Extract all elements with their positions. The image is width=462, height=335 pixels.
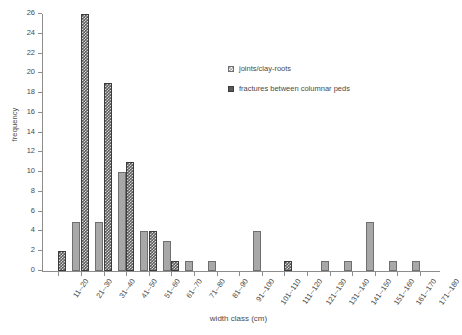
bar-group-141--150 bbox=[344, 14, 361, 271]
x-tick-141--150 bbox=[352, 272, 353, 276]
y-tick-4: 4 bbox=[38, 230, 42, 231]
x-tick-151--160 bbox=[375, 272, 376, 276]
x-tick-11--20 bbox=[58, 272, 59, 276]
x-axis-title-wrap: width class (cm) bbox=[0, 314, 451, 323]
x-tick-label-151--160: 151--160 bbox=[392, 277, 417, 307]
x-tick-81--90 bbox=[217, 272, 218, 276]
y-tick-6: 6 bbox=[38, 211, 42, 212]
y-tick-8: 8 bbox=[38, 191, 42, 192]
y-tick-label-26: 26 bbox=[27, 8, 35, 17]
bar-131--140-joints-clay-roots bbox=[321, 261, 329, 271]
bar-group-41--50 bbox=[118, 14, 135, 271]
bar-group-161--170 bbox=[389, 14, 406, 271]
x-tick-label-41--50: 41--50 bbox=[139, 277, 159, 300]
bar-group-91--100 bbox=[231, 14, 248, 271]
y-tick-24: 24 bbox=[38, 33, 42, 34]
legend-item-joints-clay-roots: joints/clay-roots bbox=[228, 64, 350, 73]
bar-group-151--160 bbox=[366, 14, 383, 271]
y-tick-22: 22 bbox=[38, 53, 42, 54]
x-tick-131--140 bbox=[330, 272, 331, 276]
bar-11--20-fractures bbox=[58, 251, 66, 271]
x-tick-label-111--120: 111--120 bbox=[301, 277, 325, 306]
y-tick-label-24: 24 bbox=[27, 28, 35, 37]
y-tick-12: 12 bbox=[38, 151, 42, 152]
y-tick-label-14: 14 bbox=[27, 127, 35, 136]
x-tick-121--130 bbox=[307, 272, 308, 276]
y-tick-16: 16 bbox=[38, 112, 42, 113]
bar-101--110-joints-clay-roots bbox=[253, 231, 261, 271]
bar-group-101--110 bbox=[253, 14, 270, 271]
y-tick-label-18: 18 bbox=[27, 87, 35, 96]
x-tick-label-101--110: 101--110 bbox=[278, 277, 302, 306]
y-tick-26: 26 bbox=[38, 13, 42, 14]
y-tick-label-0: 0 bbox=[31, 265, 35, 274]
bar-71--80-joints-clay-roots bbox=[185, 261, 193, 271]
bar-31--40-joints-clay-roots bbox=[95, 222, 103, 271]
bar-51--60-fractures bbox=[149, 231, 157, 271]
y-tick-label-6: 6 bbox=[31, 206, 35, 215]
x-tick-label-11--20: 11--20 bbox=[71, 277, 90, 299]
x-tick-label-131--140: 131--140 bbox=[346, 277, 371, 307]
y-tick-14: 14 bbox=[38, 132, 42, 133]
bar-161--170-joints-clay-roots bbox=[389, 261, 397, 271]
x-tick-label-171--180: 171--180 bbox=[437, 277, 462, 307]
y-tick-label-20: 20 bbox=[27, 67, 35, 76]
x-tick-71--80 bbox=[194, 272, 195, 276]
legend-label-joints-clay-roots: joints/clay-roots bbox=[239, 64, 291, 73]
y-tick-label-22: 22 bbox=[27, 48, 35, 57]
x-tick-label-91--100: 91--100 bbox=[254, 277, 276, 303]
bar-41--50-joints-clay-roots bbox=[118, 172, 126, 271]
bar-141--150-joints-clay-roots bbox=[344, 261, 352, 271]
bar-group-171--180 bbox=[412, 14, 429, 271]
bar-111--120-fractures bbox=[284, 261, 292, 271]
x-tick-111--120 bbox=[284, 272, 285, 276]
x-tick-101--110 bbox=[262, 272, 263, 276]
x-axis-title: width class (cm) bbox=[210, 314, 267, 323]
bar-group-111--120 bbox=[276, 14, 293, 271]
x-tick-label-51--60: 51--60 bbox=[162, 277, 182, 300]
bar-31--40-fractures bbox=[104, 83, 112, 271]
bar-81--90-joints-clay-roots bbox=[208, 261, 216, 271]
bar-151--160-joints-clay-roots bbox=[366, 222, 374, 271]
y-tick-label-12: 12 bbox=[27, 146, 35, 155]
y-tick-label-8: 8 bbox=[31, 186, 35, 195]
x-tick-label-141--150: 141--150 bbox=[369, 277, 394, 307]
legend-swatch-icon-joints-clay-roots bbox=[228, 66, 234, 72]
x-tick-label-21--30: 21--30 bbox=[94, 277, 114, 300]
bar-group-51--60 bbox=[140, 14, 157, 271]
bar-group-61--70 bbox=[163, 14, 180, 271]
x-tick-label-81--90: 81--90 bbox=[230, 277, 250, 300]
bar-41--50-fractures bbox=[126, 162, 134, 271]
bar-61--70-joints-clay-roots bbox=[163, 241, 171, 271]
bar-group-81--90 bbox=[208, 14, 225, 271]
x-tick-label-31--40: 31--40 bbox=[117, 277, 137, 300]
legend-label-fractures-between-columnar-peds: fractures between columnar peds bbox=[239, 84, 350, 93]
x-tick-51--60 bbox=[149, 272, 150, 276]
y-tick-label-4: 4 bbox=[31, 225, 35, 234]
legend-swatch-icon-fractures-between-columnar-peds bbox=[228, 86, 234, 92]
y-tick-20: 20 bbox=[38, 72, 42, 73]
bar-group-11--20 bbox=[50, 14, 67, 271]
bar-group-131--140 bbox=[321, 14, 338, 271]
bar-171--180-joints-clay-roots bbox=[412, 261, 420, 271]
legend-item-fractures-between-columnar-peds: fractures between columnar peds bbox=[228, 84, 350, 93]
y-axis-line bbox=[42, 14, 43, 272]
y-tick-0: 0 bbox=[38, 270, 42, 271]
y-tick-label-2: 2 bbox=[31, 245, 35, 254]
y-tick-2: 2 bbox=[38, 250, 42, 251]
x-axis-line bbox=[42, 271, 440, 272]
y-tick-label-16: 16 bbox=[27, 107, 35, 116]
x-tick-171--180 bbox=[420, 272, 421, 276]
bar-21--30-fractures bbox=[81, 14, 89, 271]
x-tick-label-61--70: 61--70 bbox=[185, 277, 205, 300]
x-tick-label-121--130: 121--130 bbox=[324, 277, 349, 307]
bar-group-121--130 bbox=[299, 14, 316, 271]
bar-61--70-fractures bbox=[171, 261, 179, 271]
legend: joints/clay-roots fractures between colu… bbox=[228, 64, 350, 104]
x-tick-61--70 bbox=[171, 272, 172, 276]
x-tick-label-161--170: 161--170 bbox=[414, 277, 439, 307]
x-tick-31--40 bbox=[104, 272, 105, 276]
bar-group-31--40 bbox=[95, 14, 112, 271]
y-tick-label-10: 10 bbox=[27, 166, 35, 175]
bar-group-21--30 bbox=[72, 14, 89, 271]
